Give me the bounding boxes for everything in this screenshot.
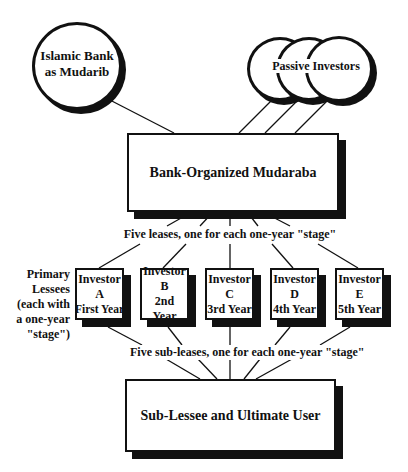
- investor-d-line2: D: [290, 287, 299, 302]
- investor-a-line3: First Year: [75, 302, 124, 316]
- investor-b-line1: Investor: [143, 264, 186, 279]
- primary-lessees-line1: Primary: [2, 267, 70, 282]
- investor-c-line2: C: [225, 287, 234, 302]
- subleases-caption: Five sub-leases, one for each one-year "…: [130, 345, 330, 360]
- investor-d-line1: Investor: [273, 272, 316, 287]
- sublessee-node: Sub-Lessee and Ultimate User: [125, 379, 336, 452]
- primary-lessees-line2: Lessees: [2, 282, 70, 297]
- islamic-bank-label-line1: Islamic Bank: [32, 48, 122, 64]
- primary-lessees-label: Primary Lessees (each with a one-year "s…: [2, 267, 70, 342]
- passive-investors-label: Passive Investors: [270, 59, 362, 73]
- investor-b-line2: B: [160, 279, 168, 294]
- islamic-bank-label-line2: as Mudarib: [32, 64, 122, 80]
- investor-e-line2: E: [355, 287, 363, 302]
- investor-a-line2: A: [95, 287, 104, 302]
- investor-a-node: Investor A First Year: [75, 268, 124, 320]
- investor-e-line1: Investor: [338, 272, 381, 287]
- investor-d-node: Investor D 4th Year: [270, 268, 319, 320]
- primary-lessees-line3: (each with: [2, 297, 70, 312]
- leases-caption: Five leases, one for each one-year "stag…: [110, 227, 350, 242]
- investor-a-line1: Investor: [78, 272, 121, 287]
- islamic-bank-label: Islamic Bank as Mudarib: [32, 48, 122, 79]
- investor-d-line3: 4th Year: [273, 302, 316, 317]
- investor-e-node: Investor E 5th Year: [335, 268, 384, 320]
- investor-e-line3: 5th Year: [338, 302, 381, 317]
- sublessee-label: Sub-Lessee and Ultimate User: [140, 408, 320, 424]
- mudaraba-node: Bank-Organized Mudaraba: [127, 133, 339, 212]
- investor-c-line1: Investor: [208, 272, 251, 287]
- mudaraba-label: Bank-Organized Mudaraba: [150, 165, 317, 181]
- investor-c-line3: 3rd Year: [207, 302, 252, 317]
- primary-lessees-line4: a one-year: [2, 312, 70, 327]
- investor-b-line3: 2nd Year: [142, 294, 187, 324]
- primary-lessees-line5: "stage"): [2, 327, 70, 342]
- investor-b-node: Investor B 2nd Year: [140, 268, 189, 320]
- investor-c-node: Investor C 3rd Year: [205, 268, 254, 320]
